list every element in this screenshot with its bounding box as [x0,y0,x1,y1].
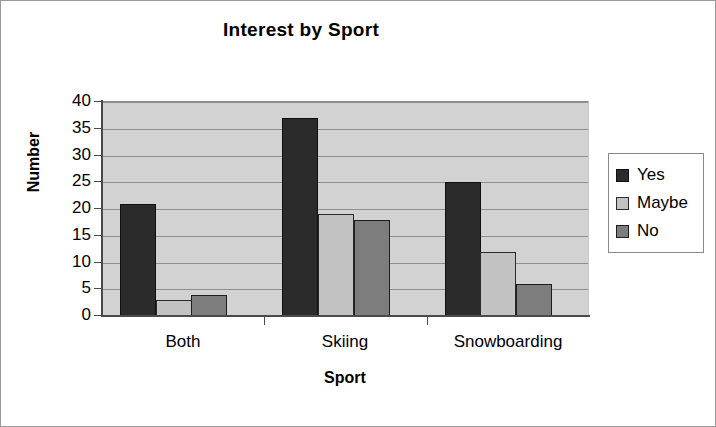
x-axis-title: Sport [101,369,589,387]
y-axis-tick-label: 35 [51,119,91,136]
legend-item-yes[interactable]: Yes [616,161,697,189]
bar-both-yes [120,204,156,317]
x-axis-tick-label: Snowboarding [427,332,589,352]
y-axis-tick [94,315,102,316]
y-axis-tick-label: 10 [51,253,91,270]
y-axis-tick-label: 5 [51,279,91,296]
gridline [102,182,588,183]
chart-legend: YesMaybeNo [608,153,704,253]
legend-swatch-icon [616,169,629,182]
y-axis-tick [94,235,102,236]
bar-skiing-no [354,220,390,317]
y-axis-tick [94,128,102,129]
bar-skiing-maybe [318,214,354,317]
bar-skiing-yes [282,118,318,317]
legend-label: Yes [637,165,665,185]
y-axis-tick [94,262,102,263]
legend-item-no[interactable]: No [616,217,697,245]
y-axis-tick-label: 15 [51,226,91,243]
bar-snowboarding-maybe [480,252,516,317]
y-axis-tick [94,208,102,209]
x-axis-tick-label: Skiing [264,332,426,352]
y-axis-tick [94,155,102,156]
legend-swatch-icon [616,197,629,210]
gridline [102,129,588,130]
x-axis-tick-label: Both [102,332,264,352]
bar-chart-figure: Interest by Sport Number 051015202530354… [0,0,716,427]
y-axis-tick-label: 40 [51,92,91,109]
y-axis-tick-label: 30 [51,146,91,163]
bar-both-no [191,295,227,317]
legend-label: Maybe [637,193,688,213]
plot-area [102,101,589,315]
x-axis-tick [264,317,265,325]
bar-snowboarding-yes [445,182,481,317]
gridline [102,102,588,103]
bar-snowboarding-no [516,284,552,317]
gridline [102,209,588,210]
y-axis-tick-label: 0 [51,306,91,323]
x-axis-tick [427,317,428,325]
gridline [102,156,588,157]
legend-swatch-icon [616,225,629,238]
y-axis-tick [94,181,102,182]
legend-item-maybe[interactable]: Maybe [616,189,697,217]
legend-label: No [637,221,659,241]
y-axis-title: Number [25,107,43,217]
y-axis-tick-label: 20 [51,199,91,216]
y-axis-tick-label: 25 [51,172,91,189]
y-axis-tick-labels: 0510152025303540 [45,1,91,427]
y-axis-tick [94,288,102,289]
x-axis-line [101,315,590,317]
y-axis-tick [94,101,102,102]
chart-title: Interest by Sport [1,19,601,41]
